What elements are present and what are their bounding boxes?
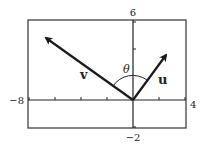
vector-v-arrow [46, 38, 133, 100]
x-min-label: −8 [9, 95, 24, 106]
vector-v-label: v [79, 67, 88, 82]
x-max-label: 4 [190, 99, 196, 110]
y-min-label: −2 [126, 132, 141, 143]
angle-theta-label: θ [123, 63, 130, 76]
vector-u-label: u [158, 72, 167, 87]
y-max-label: 6 [130, 7, 136, 18]
vector-diagram: 6 −2 −8 4 v u θ [0, 0, 202, 148]
angle-theta-arc [113, 75, 147, 86]
